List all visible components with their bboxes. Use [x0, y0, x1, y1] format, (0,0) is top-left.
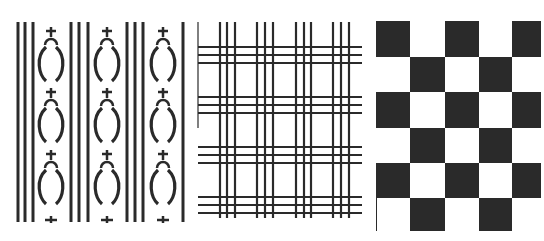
dark-square	[445, 92, 479, 128]
checkerboard-pattern	[370, 0, 544, 241]
dark-square	[479, 198, 512, 231]
plaid-grid-panel	[190, 0, 370, 241]
end-cross-mark	[157, 216, 169, 223]
striped-motif-pattern	[0, 0, 190, 241]
gourd-motif	[95, 27, 119, 81]
end-cross-mark	[101, 216, 113, 223]
dark-square	[479, 57, 512, 92]
plaid-grid-pattern	[190, 0, 370, 241]
gourd-motif	[39, 27, 63, 81]
dark-square	[512, 92, 541, 128]
dark-square	[376, 163, 410, 198]
gourd-motif	[39, 88, 63, 142]
dark-square	[479, 128, 512, 163]
dark-square	[512, 21, 541, 57]
dark-square	[512, 163, 541, 198]
gourd-motif	[95, 150, 119, 204]
dark-square	[445, 163, 479, 198]
gourd-motif	[151, 150, 175, 204]
striped-motif-panel	[0, 0, 190, 241]
checkerboard-panel	[370, 0, 544, 241]
dark-square	[376, 21, 410, 57]
end-cross-mark	[45, 216, 57, 223]
dark-square	[445, 21, 479, 57]
gourd-motif	[151, 88, 175, 142]
gourd-motif	[151, 27, 175, 81]
dark-square	[376, 92, 410, 128]
dark-square	[410, 57, 445, 92]
gourd-motif	[95, 88, 119, 142]
dark-square	[410, 198, 445, 231]
gourd-motif	[39, 150, 63, 204]
dark-square	[410, 128, 445, 163]
